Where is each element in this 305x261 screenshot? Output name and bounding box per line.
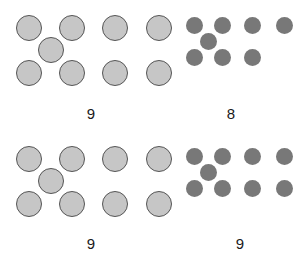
dot <box>200 164 217 181</box>
dot <box>186 148 203 165</box>
dot <box>214 148 231 165</box>
dot-panel-bottom-right: 9 <box>0 0 305 261</box>
dot <box>244 148 261 165</box>
dot <box>186 180 203 197</box>
count-label-bottom-right: 9 <box>220 236 260 251</box>
dot <box>276 180 293 197</box>
dot <box>276 148 293 165</box>
dot <box>214 180 231 197</box>
dot-array-figure: 9899 <box>0 0 305 261</box>
dot <box>244 180 261 197</box>
